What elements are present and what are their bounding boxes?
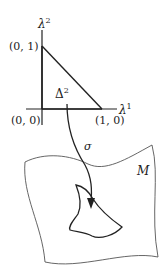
point-label-top: (0, 1) [9, 40, 39, 53]
map-arrow-curve [67, 104, 91, 203]
map-label: σ [84, 140, 92, 153]
point-label-origin: (0, 0) [11, 114, 41, 127]
manifold-label: M [136, 164, 150, 178]
simplex-hypotenuse [42, 46, 102, 109]
simplex-map-diagram: λ2 λ1 (0, 1) (0, 0) (1, 0) Δ2 M σ [0, 0, 168, 280]
image-region [70, 185, 122, 237]
point-label-right: (1, 0) [95, 114, 125, 127]
simplex-label: Δ2 [55, 86, 69, 101]
vertical-axis-label: λ2 [37, 16, 51, 31]
